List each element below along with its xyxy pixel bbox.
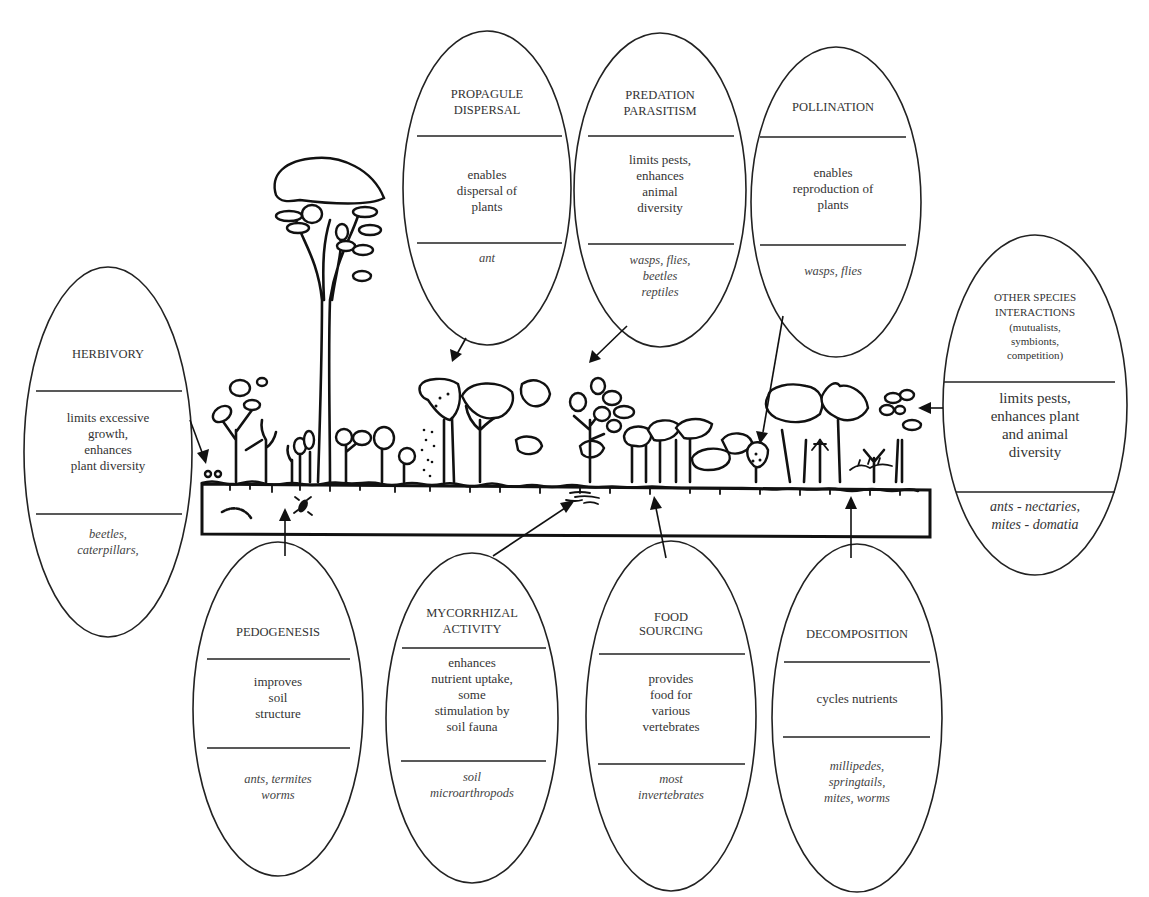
- ellipse-function: cycles nutrients: [816, 691, 897, 706]
- ellipse-function: diversity: [637, 200, 683, 215]
- ellipse-title: DECOMPOSITION: [806, 627, 908, 641]
- ellipse-organisms: ants, termites: [244, 772, 311, 786]
- ellipse-subtitle: competition): [1007, 349, 1064, 362]
- ellipse-pollination: POLLINATION enables reproduction of plan…: [751, 47, 921, 357]
- ellipse-organisms: wasps, flies: [804, 264, 862, 278]
- ellipse-organisms: springtails,: [829, 775, 886, 789]
- ellipse-title: ACTIVITY: [442, 622, 501, 636]
- arrow-herbivory: [190, 420, 209, 464]
- arrow-propagule-dispersal: [450, 338, 466, 362]
- ellipse-propagule-dispersal: PROPAGULE DISPERSAL enables dispersal of…: [403, 31, 571, 345]
- ellipse-organisms: mites, worms: [824, 791, 890, 805]
- ellipse-function: provides: [649, 671, 694, 686]
- ellipse-decomposition: DECOMPOSITION cycles nutrients millipede…: [772, 544, 942, 892]
- ellipse-organisms: invertebrates: [638, 788, 704, 802]
- ellipse-title: OTHER SPECIES: [994, 291, 1076, 303]
- ellipse-organisms: soil: [463, 770, 482, 784]
- ellipse-organisms: most: [659, 772, 683, 786]
- ellipse-function: limits excessive: [67, 410, 150, 425]
- ellipse-organisms: reptiles: [641, 285, 678, 299]
- ellipse-function: dispersal of: [457, 183, 518, 198]
- ellipse-title: SOURCING: [639, 624, 703, 638]
- ellipse-title: POLLINATION: [792, 100, 874, 114]
- ellipse-function: various: [652, 703, 690, 718]
- ellipse-function: growth,: [88, 426, 128, 441]
- ellipse-function: nutrient uptake,: [431, 671, 513, 686]
- ellipse-herbivory: HERBIVORY limits excessive growth, enhan…: [24, 267, 192, 637]
- ellipse-organisms: caterpillars,: [77, 543, 138, 557]
- ellipse-function: plants: [817, 197, 848, 212]
- ellipse-function: soil: [269, 690, 288, 705]
- ellipse-other-species-interactions: OTHER SPECIES INTERACTIONS (mutualists, …: [943, 235, 1127, 575]
- ellipse-predation-parasitism: PREDATION PARASITISM limits pests, enhan…: [574, 33, 746, 347]
- ellipse-organisms: millipedes,: [830, 759, 885, 773]
- ellipse-organisms: microarthropods: [430, 786, 514, 800]
- ellipse-title: INTERACTIONS: [995, 306, 1075, 318]
- ellipse-function: enhances plant: [991, 408, 1081, 424]
- ellipse-function: enables: [814, 165, 853, 180]
- ellipse-function: enhances: [84, 442, 132, 457]
- ellipse-organisms: ants - nectaries,: [990, 499, 1080, 514]
- ellipse-function: structure: [255, 706, 301, 721]
- ellipse-function: limits pests,: [999, 390, 1071, 406]
- ellipse-subtitle: (mutualists,: [1009, 321, 1061, 334]
- left-shrubs: [205, 378, 415, 482]
- ellipse-organisms: worms: [261, 788, 294, 802]
- ellipse-function: stimulation by: [435, 703, 510, 718]
- ellipse-organisms: ant: [479, 251, 496, 265]
- ecosystem-function-diagram: HERBIVORY limits excessive growth, enhan…: [0, 0, 1149, 897]
- ellipse-subtitle: symbionts,: [1011, 335, 1059, 347]
- ellipse-function: diversity: [1009, 444, 1062, 460]
- ellipse-function: enhances: [636, 168, 684, 183]
- ellipse-function: enhances: [448, 655, 496, 670]
- ellipse-function: vertebrates: [642, 719, 699, 734]
- ellipse-function: plant diversity: [71, 458, 146, 473]
- ellipse-organisms: beetles,: [89, 527, 127, 541]
- ellipse-function: soil fauna: [447, 719, 498, 734]
- ellipse-function: food for: [650, 687, 693, 702]
- ellipse-function: some: [458, 687, 486, 702]
- ellipse-title: PEDOGENESIS: [236, 625, 320, 639]
- ellipse-function: improves: [254, 674, 302, 689]
- ellipse-function: and animal: [1002, 426, 1068, 442]
- arrow-pollination: [756, 316, 783, 444]
- ellipse-function: limits pests,: [629, 152, 691, 167]
- arrow-other-species-interactions: [918, 402, 943, 414]
- ellipse-organisms: beetles: [643, 269, 678, 283]
- ellipse-function: enables: [468, 167, 507, 182]
- arrow-predation-parasitism: [589, 326, 627, 363]
- ellipse-mycorrhizal-activity: MYCORRHIZAL ACTIVITY enhances nutrient u…: [386, 553, 558, 883]
- ellipse-title: FOOD: [654, 610, 688, 624]
- ellipse-organisms: wasps, flies,: [630, 253, 691, 267]
- ellipse-pedogenesis: PEDOGENESIS improves soil structure ants…: [193, 542, 363, 876]
- ellipse-title: MYCORRHIZAL: [426, 606, 518, 620]
- mid-trees: [462, 378, 634, 482]
- right-forest: [624, 383, 921, 482]
- ellipse-title: PARASITISM: [623, 104, 696, 118]
- ellipse-title: PROPAGULE: [451, 87, 524, 101]
- vegetation-and-soil-illustration: [202, 158, 930, 537]
- ellipse-function: plants: [471, 199, 502, 214]
- ellipse-organisms: mites - domatia: [991, 517, 1078, 532]
- seed-dispersal-shrub: [419, 379, 459, 482]
- ellipse-function: animal: [642, 184, 678, 199]
- ellipse-title: DISPERSAL: [454, 103, 521, 117]
- ellipse-function: reproduction of: [793, 181, 874, 196]
- ellipse-food-sourcing: FOOD SOURCING provides food for various …: [586, 541, 756, 891]
- ellipse-title: PREDATION: [625, 88, 694, 102]
- ellipse-title: HERBIVORY: [72, 347, 144, 361]
